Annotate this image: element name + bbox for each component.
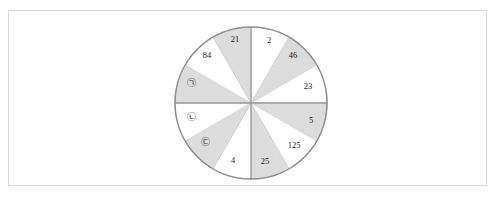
- circle-sector-diagram: 246235125254㉢㉡㉠8421: [0, 0, 496, 197]
- sector-label-2: 23: [304, 81, 313, 91]
- sector-label-7: ㉢: [201, 137, 210, 147]
- figure-root: 246235125254㉢㉡㉠8421: [0, 0, 496, 197]
- sector-label-11: 21: [231, 34, 240, 44]
- sector-label-9: ㉠: [187, 78, 196, 88]
- sector-label-0: 2: [267, 35, 271, 45]
- sector-label-3: 5: [309, 115, 313, 125]
- sector-label-4: 125: [288, 140, 301, 150]
- sector-label-1: 46: [289, 50, 298, 60]
- sector-label-10: 84: [203, 50, 212, 60]
- wheel-svg: 246235125254㉢㉡㉠8421: [0, 0, 496, 197]
- sector-label-8: ㉡: [187, 112, 196, 122]
- sector-label-5: 25: [261, 156, 270, 166]
